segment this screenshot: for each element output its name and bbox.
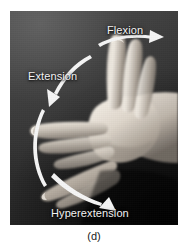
flexed-fingers-shape (107, 34, 156, 119)
label-extension: Extension (28, 70, 77, 82)
anatomy-photograph: Flexion Extension Hyperextension (10, 11, 178, 225)
figure-container: Flexion Extension Hyperextension (d) (0, 0, 188, 251)
hand-illustration (10, 11, 178, 225)
figure-caption: (d) (0, 230, 188, 243)
label-hyperextension: Hyperextension (51, 207, 129, 219)
extended-fingers-shape (30, 122, 114, 169)
label-flexion: Flexion (107, 24, 143, 36)
